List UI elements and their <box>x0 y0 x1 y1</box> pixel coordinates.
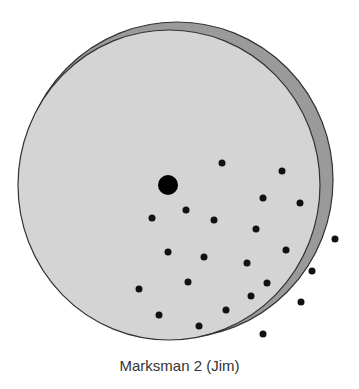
shot-hole <box>297 200 304 207</box>
shot-hole <box>279 168 286 175</box>
bullseye <box>158 175 178 195</box>
shot-hole <box>283 247 290 254</box>
shot-hole <box>156 312 163 319</box>
shot-hole <box>211 217 218 224</box>
shot-hole <box>260 195 267 202</box>
shot-hole <box>260 331 267 338</box>
shot-hole <box>309 268 316 275</box>
shot-hole <box>185 279 192 286</box>
shot-hole <box>332 236 339 243</box>
shot-hole <box>196 323 203 330</box>
shot-hole <box>136 286 143 293</box>
shot-hole <box>219 160 226 167</box>
shot-hole <box>253 226 260 233</box>
target-graphic <box>0 0 359 389</box>
shot-hole <box>149 215 156 222</box>
shot-hole <box>201 254 208 261</box>
shot-hole <box>248 293 255 300</box>
shot-hole <box>223 307 230 314</box>
shot-hole <box>298 299 305 306</box>
shot-hole <box>244 260 251 267</box>
shot-hole <box>183 207 190 214</box>
shot-hole <box>264 280 271 287</box>
target-diagram: Marksman 2 (Jim) <box>0 0 359 389</box>
shot-hole <box>165 249 172 256</box>
diagram-caption: Marksman 2 (Jim) <box>0 357 359 374</box>
